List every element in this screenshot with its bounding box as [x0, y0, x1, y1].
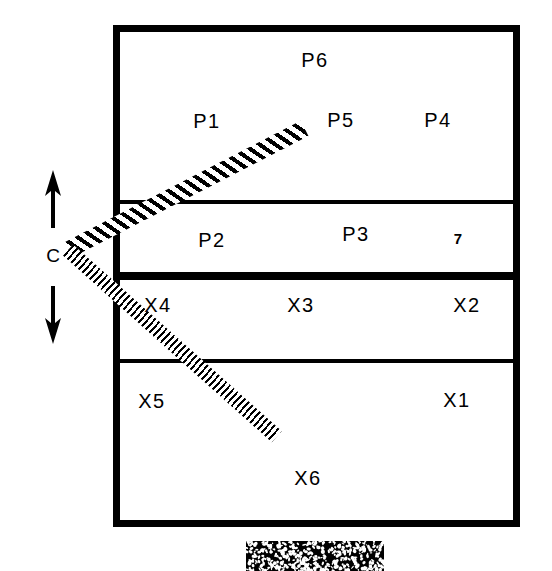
dimension-label: C: [30, 245, 76, 267]
region-label-p2: P2: [198, 229, 225, 252]
region-label-p3: P3: [342, 223, 369, 246]
region-label-p5: P5: [327, 109, 354, 132]
region-label-p4: P4: [424, 109, 451, 132]
region-label-x5: X5: [138, 390, 165, 413]
region-label-x6: X6: [294, 467, 321, 490]
region-label-x1: X1: [443, 389, 470, 412]
tick-mark: 7: [454, 230, 462, 247]
arrow-down-icon: [41, 286, 65, 344]
region-label-x2: X2: [453, 294, 480, 317]
region-label-p1: P1: [193, 110, 220, 133]
speckle-block: [246, 541, 384, 571]
region-label-x4: X4: [144, 294, 171, 317]
arrow-up-icon: [41, 170, 65, 228]
divider-x-lower: [113, 359, 520, 363]
diagram-root: C 7 P6P1P5P4P2P3X4X3X2X5X1X6: [0, 0, 552, 571]
region-label-x3: X3: [287, 294, 314, 317]
dimension-marker: C: [30, 165, 76, 350]
divider-p-x-split: [113, 272, 520, 280]
region-label-p6: P6: [301, 49, 328, 72]
